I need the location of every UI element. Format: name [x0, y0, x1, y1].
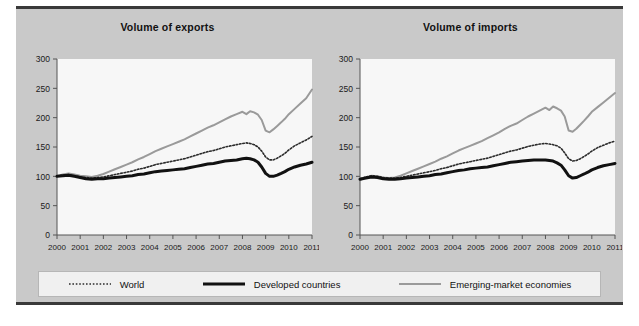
svg-text:250: 250	[339, 84, 353, 94]
chart-panel-imports: Volume of imports 0501001502002503002000…	[319, 9, 622, 261]
svg-text:2009: 2009	[560, 243, 578, 252]
legend-item-emerging-market-economies: Emerging-market economies	[398, 279, 571, 290]
svg-text:2000: 2000	[351, 243, 369, 252]
figure-panel: Volume of exports 0501001502002503002000…	[16, 6, 623, 305]
svg-text:300: 300	[339, 54, 353, 64]
svg-text:2007: 2007	[210, 243, 228, 252]
legend-swatch-developed-countries	[202, 280, 246, 288]
svg-text:150: 150	[36, 142, 50, 152]
svg-text:50: 50	[41, 201, 51, 211]
svg-text:2001: 2001	[374, 243, 392, 252]
legend-swatch-world	[68, 280, 112, 288]
svg-text:200: 200	[36, 113, 50, 123]
plot-area-imports: 0501001502002503002000200120022003200420…	[319, 9, 622, 261]
legend-label-emerging-market-economies: Emerging-market economies	[450, 279, 571, 290]
legend-item-world: World	[68, 279, 145, 290]
legend-label-world: World	[120, 279, 145, 290]
svg-text:0: 0	[348, 230, 353, 240]
svg-text:2006: 2006	[490, 243, 508, 252]
svg-text:2002: 2002	[94, 243, 112, 252]
svg-text:2009: 2009	[257, 243, 275, 252]
svg-text:100: 100	[339, 172, 353, 182]
svg-text:2006: 2006	[187, 243, 205, 252]
svg-text:2010: 2010	[280, 243, 298, 252]
chart-panel-exports: Volume of exports 0501001502002503002000…	[16, 9, 319, 261]
svg-text:2011: 2011	[303, 243, 319, 252]
svg-text:2010: 2010	[583, 243, 601, 252]
svg-text:2000: 2000	[48, 243, 66, 252]
chart-legend: World Developed countries Emerging-marke…	[38, 271, 601, 297]
svg-text:2003: 2003	[118, 243, 136, 252]
svg-text:2003: 2003	[421, 243, 439, 252]
svg-text:2002: 2002	[397, 243, 415, 252]
svg-text:0: 0	[45, 230, 50, 240]
legend-swatch-emerging-market-economies	[398, 280, 442, 288]
legend-item-developed-countries: Developed countries	[202, 279, 341, 290]
svg-text:50: 50	[344, 201, 354, 211]
svg-text:2005: 2005	[164, 243, 182, 252]
svg-text:2001: 2001	[71, 243, 89, 252]
svg-text:150: 150	[339, 142, 353, 152]
svg-text:250: 250	[36, 84, 50, 94]
plot-area-exports: 0501001502002503002000200120022003200420…	[16, 9, 319, 261]
svg-text:100: 100	[36, 172, 50, 182]
svg-text:2005: 2005	[467, 243, 485, 252]
svg-text:200: 200	[339, 113, 353, 123]
svg-text:2004: 2004	[444, 243, 462, 252]
svg-text:2008: 2008	[234, 243, 252, 252]
svg-text:2007: 2007	[513, 243, 531, 252]
svg-text:300: 300	[36, 54, 50, 64]
svg-text:2004: 2004	[141, 243, 159, 252]
svg-text:2008: 2008	[537, 243, 555, 252]
charts-row: Volume of exports 0501001502002503002000…	[16, 9, 623, 261]
svg-text:2011: 2011	[606, 243, 622, 252]
legend-label-developed-countries: Developed countries	[254, 279, 341, 290]
